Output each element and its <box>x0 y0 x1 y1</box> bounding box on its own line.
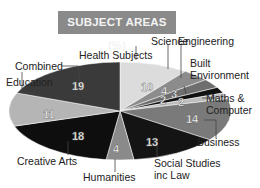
value-creative: 18 <box>72 130 84 142</box>
label-engineering: Engineering <box>178 35 234 47</box>
label-maths-2: Computer <box>206 104 253 116</box>
label-business: Business <box>197 136 240 148</box>
label-combined: Combined <box>15 60 63 72</box>
value-humanities: 4 <box>113 143 120 155</box>
label-health: Health Subjects <box>79 49 153 61</box>
label-built-2: Environment <box>190 69 249 81</box>
value-built: 2 <box>160 94 166 106</box>
label-built-1: Built <box>190 57 211 69</box>
label-creative: Creative Arts <box>17 155 77 167</box>
label-humanities: Humanities <box>83 171 136 183</box>
pie-chart: 10 4 3 2 2 14 13 4 18 11 19 Health Subje… <box>0 0 260 188</box>
label-social-2: inc Law <box>154 169 190 181</box>
value-engineering: 3 <box>171 88 177 100</box>
label-maths-1: Maths & <box>206 92 245 104</box>
label-education: Education <box>6 76 53 88</box>
label-social-1: Social Studies <box>154 157 221 169</box>
value-education: 11 <box>43 108 55 120</box>
value-business: 14 <box>186 113 199 125</box>
value-social: 13 <box>146 136 158 148</box>
value-health: 10 <box>141 81 153 93</box>
value-maths: 2 <box>178 96 184 108</box>
value-combined: 19 <box>72 80 84 92</box>
